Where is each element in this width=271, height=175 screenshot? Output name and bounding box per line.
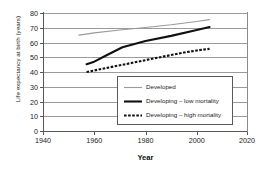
legend-label: Developing – low mortality [146, 98, 219, 104]
legend-item-developing-low-mortality: Developing – low mortality [118, 95, 234, 108]
x-tick-label: 1980 [131, 137, 161, 144]
life-expectancy-chart: Life expectancy at birth (years) 80 70 6… [0, 0, 271, 175]
x-tick-label: 2000 [182, 137, 212, 144]
x-tick-label: 2020 [232, 137, 262, 144]
legend-item-developing-high-mortality: Developing – high mortality [118, 109, 234, 122]
legend-label: Developed [146, 84, 176, 90]
chart-legend: Developed Developing – low mortality Dev… [117, 76, 233, 125]
legend-item-developed: Developed [118, 81, 234, 94]
x-tick-label: 1960 [79, 137, 109, 144]
legend-swatch-solid-gray-icon [124, 83, 142, 92]
legend-swatch-dashed-black-icon [124, 111, 142, 120]
legend-label: Developing – high mortality [146, 112, 221, 118]
legend-swatch-solid-black-icon [124, 97, 142, 106]
x-tick-label: 1940 [28, 137, 58, 144]
x-axis-title: Year [43, 154, 248, 162]
